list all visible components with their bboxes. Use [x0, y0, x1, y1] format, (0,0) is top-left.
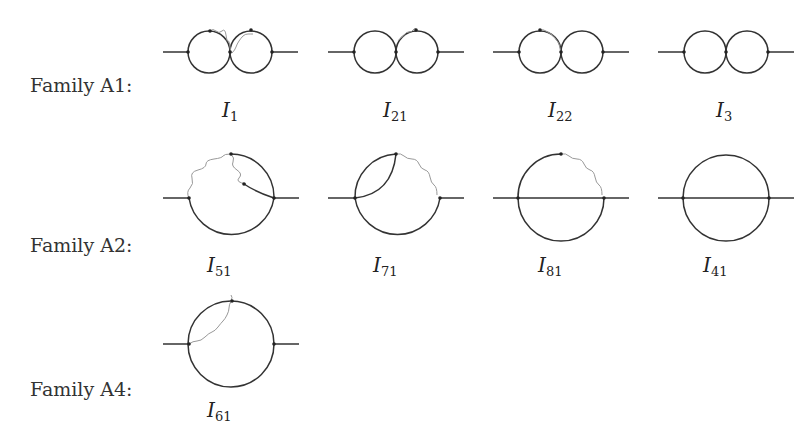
diagram-i81 [493, 152, 629, 241]
label-i51: I51 [207, 253, 231, 279]
diagram-i3 [658, 31, 794, 73]
label-i71: I71 [373, 253, 397, 279]
label-i21: I21 [383, 98, 407, 124]
diagram-i61 [163, 295, 299, 387]
diagram-i21 [328, 28, 464, 73]
diagram-i71 [328, 152, 464, 234]
label-i61: I61 [207, 398, 231, 424]
label-i1: I1 [222, 98, 238, 124]
diagram-i41 [658, 155, 794, 241]
label-i41: I41 [703, 253, 727, 279]
diagram-i1 [163, 28, 298, 73]
diagram-i22 [493, 28, 629, 73]
label-i3: I3 [716, 98, 732, 124]
label-i81: I81 [538, 253, 562, 279]
label-i22: I22 [548, 98, 572, 124]
diagram-i51 [163, 152, 299, 234]
diagrams-canvas [0, 0, 811, 443]
